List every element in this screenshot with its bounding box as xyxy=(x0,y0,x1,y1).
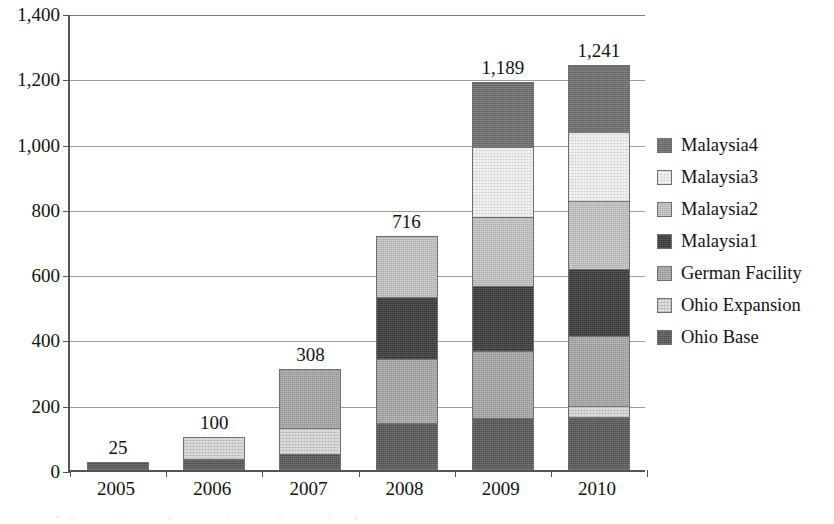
y-axis-tick-label: 600 xyxy=(32,266,61,285)
gridline xyxy=(70,407,645,408)
legend-swatch-icon xyxy=(657,170,672,185)
bar-total-label: 25 xyxy=(58,438,178,458)
y-axis-tick-label: 1,400 xyxy=(17,5,60,24)
legend-item-ohio-expansion[interactable]: Ohio Expansion xyxy=(657,289,832,321)
y-axis-tick xyxy=(63,341,70,342)
bar-segment-malaysia1[interactable] xyxy=(568,269,630,336)
x-axis-tick-label-2006: 2006 xyxy=(164,478,260,500)
legend-item-german-facility[interactable]: German Facility xyxy=(657,257,832,289)
legend-item-label: Malaysia1 xyxy=(681,231,758,251)
bar-total-label: 716 xyxy=(347,212,467,232)
bar-segment-ohio-base[interactable] xyxy=(568,417,630,470)
bar-group[interactable] xyxy=(87,13,149,470)
gridline xyxy=(70,341,645,342)
bar-segment-ohio-expansion[interactable] xyxy=(568,406,630,416)
bar-segment-german-facility[interactable] xyxy=(472,351,534,418)
x-axis-tick xyxy=(551,470,552,477)
scan-artifact xyxy=(0,508,430,524)
y-axis-tick xyxy=(63,276,70,277)
x-axis-tick-label-2007: 2007 xyxy=(260,478,356,500)
x-axis-tick-label-2010: 2010 xyxy=(549,478,645,500)
y-axis-tick xyxy=(63,146,70,147)
bar-segment-malaysia3[interactable] xyxy=(472,147,534,217)
legend-item-label: Malaysia3 xyxy=(681,167,758,187)
legend-item-malaysia4[interactable]: Malaysia4 xyxy=(657,129,832,161)
bar-segment-malaysia2[interactable] xyxy=(568,201,630,270)
x-axis-tick-label-2008: 2008 xyxy=(357,478,453,500)
legend-item-label: Ohio Base xyxy=(681,327,759,347)
y-axis-tick xyxy=(63,15,70,16)
legend-item-label: Ohio Expansion xyxy=(681,295,801,315)
bar-group[interactable] xyxy=(472,13,534,470)
bar-segment-ohio-base[interactable] xyxy=(183,459,245,470)
legend-item-ohio-base[interactable]: Ohio Base xyxy=(657,321,832,353)
legend-swatch-icon xyxy=(657,266,672,281)
bar-segment-ohio-expansion[interactable] xyxy=(183,437,245,458)
chart-legend: Malaysia4Malaysia3Malaysia2Malaysia1Germ… xyxy=(657,129,832,353)
plot-area: 251003087161,1891,241 xyxy=(68,15,645,472)
legend-swatch-icon xyxy=(657,138,672,153)
bar-group[interactable] xyxy=(376,13,438,470)
x-axis-tick xyxy=(455,470,456,477)
gridline xyxy=(70,276,645,277)
legend-swatch-icon xyxy=(657,202,672,217)
bar-total-label: 1,241 xyxy=(539,41,659,61)
bar-segment-ohio-base[interactable] xyxy=(376,423,438,470)
bar-segment-ohio-base[interactable] xyxy=(87,462,149,470)
x-axis-tick xyxy=(359,470,360,477)
y-axis-tick-labels: 02004006008001,0001,2001,400 xyxy=(0,0,60,524)
bar-group[interactable] xyxy=(183,13,245,470)
gridline xyxy=(70,80,645,81)
x-axis-tick-label-2005: 2005 xyxy=(68,478,164,500)
legend-swatch-icon xyxy=(657,330,672,345)
gridline xyxy=(70,146,645,147)
x-axis-tick xyxy=(262,470,263,477)
y-axis-tick xyxy=(63,407,70,408)
bar-segment-malaysia1[interactable] xyxy=(472,286,534,351)
bar-segment-ohio-base[interactable] xyxy=(279,454,341,470)
legend-item-malaysia1[interactable]: Malaysia1 xyxy=(657,225,832,257)
y-axis-tick-label: 400 xyxy=(32,331,61,350)
legend-item-label: Malaysia4 xyxy=(681,135,758,155)
legend-swatch-icon xyxy=(657,298,672,313)
bar-segment-german-facility[interactable] xyxy=(279,369,341,427)
x-axis-tick-label-2009: 2009 xyxy=(453,478,549,500)
x-axis-tick xyxy=(166,470,167,477)
x-axis-tick-labels: 200520062007200820092010 xyxy=(68,478,645,508)
legend-item-malaysia2[interactable]: Malaysia2 xyxy=(657,193,832,225)
legend-swatch-icon xyxy=(657,234,672,249)
y-axis-tick xyxy=(63,211,70,212)
bar-segment-german-facility[interactable] xyxy=(376,359,438,423)
stacked-bar-chart-figure: 02004006008001,0001,2001,400 25100308716… xyxy=(0,0,834,524)
bar-total-label: 308 xyxy=(250,345,370,365)
bar-segment-malaysia2[interactable] xyxy=(376,236,438,297)
x-axis-tick xyxy=(70,470,71,477)
x-axis-tick xyxy=(647,470,648,477)
bar-group[interactable] xyxy=(279,13,341,470)
bar-segment-malaysia3[interactable] xyxy=(568,132,630,201)
bar-group[interactable] xyxy=(568,13,630,470)
bar-segment-malaysia4[interactable] xyxy=(568,65,630,132)
bar-segment-malaysia2[interactable] xyxy=(472,217,534,286)
bar-segment-ohio-expansion[interactable] xyxy=(279,428,341,455)
y-axis-tick xyxy=(63,80,70,81)
y-axis-tick-label: 800 xyxy=(32,201,61,220)
bar-total-label: 100 xyxy=(154,413,274,433)
legend-item-label: German Facility xyxy=(681,263,802,283)
legend-item-malaysia3[interactable]: Malaysia3 xyxy=(657,161,832,193)
gridline xyxy=(70,15,645,16)
legend-item-label: Malaysia2 xyxy=(681,199,758,219)
y-axis-tick xyxy=(63,472,70,473)
bar-segment-ohio-base[interactable] xyxy=(472,418,534,470)
bar-segment-malaysia1[interactable] xyxy=(376,297,438,359)
bar-segment-german-facility[interactable] xyxy=(568,336,630,406)
y-axis-tick-label: 0 xyxy=(51,462,61,481)
y-axis-tick-label: 1,200 xyxy=(17,70,60,89)
y-axis-tick-label: 1,000 xyxy=(17,136,60,155)
bar-segment-malaysia4[interactable] xyxy=(472,82,534,147)
y-axis-tick-label: 200 xyxy=(32,397,61,416)
